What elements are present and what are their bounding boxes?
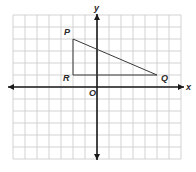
axes xyxy=(8,14,184,160)
coordinate-grid-diagram: yxOPQR xyxy=(0,0,196,172)
x-axis-label: x xyxy=(185,82,192,92)
segment-pq xyxy=(73,39,157,75)
y-axis-label: y xyxy=(93,3,100,13)
point-label-r: R xyxy=(63,73,70,83)
origin-label: O xyxy=(89,88,96,98)
x-axis-arrow-left-icon xyxy=(8,84,14,90)
point-label-p: P xyxy=(64,27,71,37)
labels: yxOPQR xyxy=(63,3,192,98)
point-label-q: Q xyxy=(161,73,168,83)
triangle-segments xyxy=(73,39,157,75)
